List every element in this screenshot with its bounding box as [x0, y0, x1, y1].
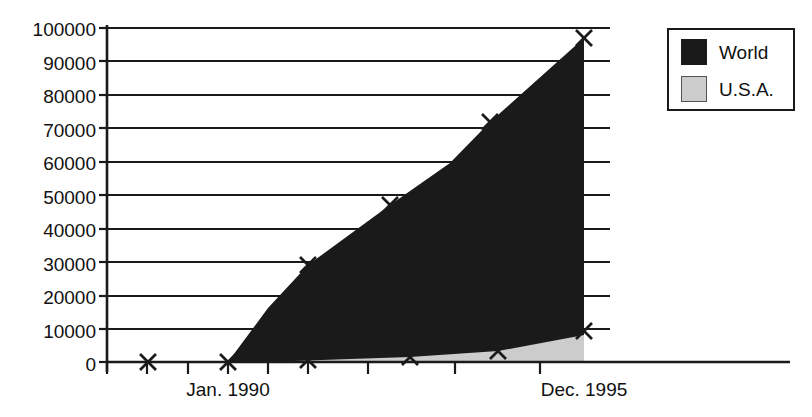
legend: World U.S.A. — [667, 28, 795, 111]
x-tick-label-end: Dec. 1995 — [518, 380, 650, 399]
x-tick-label-start: Jan. 1990 — [162, 380, 294, 399]
area-chart: 100000 90000 80000 70000 60000 50000 400… — [0, 0, 812, 417]
x-axis-ticks — [107, 362, 540, 374]
series-area-world — [228, 38, 584, 362]
legend-item-usa: U.S.A. — [681, 76, 774, 102]
legend-label-world: World — [719, 43, 768, 62]
legend-swatch-usa — [681, 76, 707, 102]
legend-item-world: World — [681, 39, 768, 65]
legend-swatch-world — [681, 39, 707, 65]
legend-label-usa: U.S.A. — [719, 80, 774, 99]
